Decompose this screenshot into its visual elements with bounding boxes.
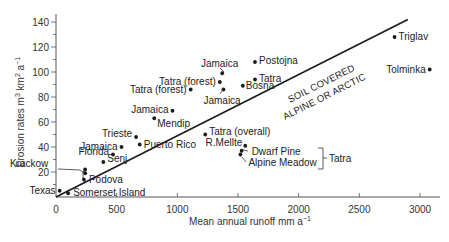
tatra-bracket: [318, 148, 327, 169]
point-label: Jamaica: [131, 104, 169, 115]
alpine-meadow-leader: [242, 157, 246, 162]
point-label: Jamaica: [203, 95, 241, 106]
trend-line: [56, 20, 408, 198]
data-point: [239, 153, 243, 157]
y-tick-label: 60: [38, 117, 50, 128]
data-point: [120, 145, 124, 149]
data-point: [58, 189, 62, 193]
data-point: [111, 153, 115, 157]
point-label: Mendip: [157, 118, 190, 129]
data-point: [218, 80, 222, 84]
x-tick-label: 2500: [348, 204, 371, 215]
x-tick-label: 500: [108, 204, 125, 215]
data-point: [253, 78, 257, 82]
data-point: [393, 35, 397, 39]
tatra-group-label: Tatra: [329, 153, 352, 164]
y-tick-label: 140: [32, 17, 49, 28]
point-label: R.Mellte: [206, 137, 243, 148]
point-label: Senj: [107, 153, 127, 164]
data-point: [171, 109, 175, 113]
scatter-chart: 20406080100120140 0500100015002000250030…: [0, 0, 449, 242]
band-labels: SOIL COVERED ALPINE OR ARCTIC: [281, 62, 368, 122]
point-label: Podova: [89, 174, 123, 185]
point-label: Krackow: [10, 158, 49, 169]
data-point: [134, 135, 138, 139]
point-label: Triglav: [399, 31, 429, 42]
x-tick-label: 1000: [166, 204, 189, 215]
point-label: Somerset Island: [73, 187, 145, 198]
y-tick-label: 120: [32, 42, 49, 53]
point-label: Jamaica: [80, 141, 118, 152]
x-tick-label: 2000: [288, 204, 311, 215]
point-label: Dwarf Pine: [252, 146, 301, 157]
point-label: Postojna: [259, 55, 298, 66]
x-tick-label: 3000: [409, 204, 432, 215]
y-tick-label: 40: [38, 142, 50, 153]
data-point: [189, 88, 193, 92]
y-tick-label: 80: [38, 92, 50, 103]
x-tick-label: 0: [53, 204, 59, 215]
data-point: [243, 144, 247, 148]
krackow-leader: [58, 169, 84, 173]
x-axis-label: Mean annual runoff mm a−1: [189, 215, 311, 227]
data-point: [428, 68, 432, 72]
point-label: Tatra (forest): [159, 76, 216, 87]
data-point: [152, 116, 156, 120]
dwarf-pine-leader: [243, 150, 248, 151]
point-label: Tatra: [259, 73, 282, 84]
data-point: [253, 60, 257, 64]
point-label: Alpine Meadow: [248, 157, 317, 168]
data-point: [138, 143, 142, 147]
data-point: [240, 149, 244, 153]
data-point: [66, 191, 70, 195]
x-tick-label: 1500: [227, 204, 250, 215]
point-label: Tatra (overall): [209, 126, 270, 137]
y-axis-label: Erosion rates m3 km2 a−1: [14, 57, 26, 167]
point-label: Trieste: [102, 128, 133, 139]
data-point: [241, 84, 245, 88]
data-point: [101, 160, 105, 164]
point-label: Tolminka: [386, 64, 426, 75]
point-label: Puerto Rico: [144, 139, 197, 150]
point-label: Jamaica: [201, 58, 239, 69]
y-tick-label: 100: [32, 67, 49, 78]
point-label: Texas: [30, 185, 56, 196]
